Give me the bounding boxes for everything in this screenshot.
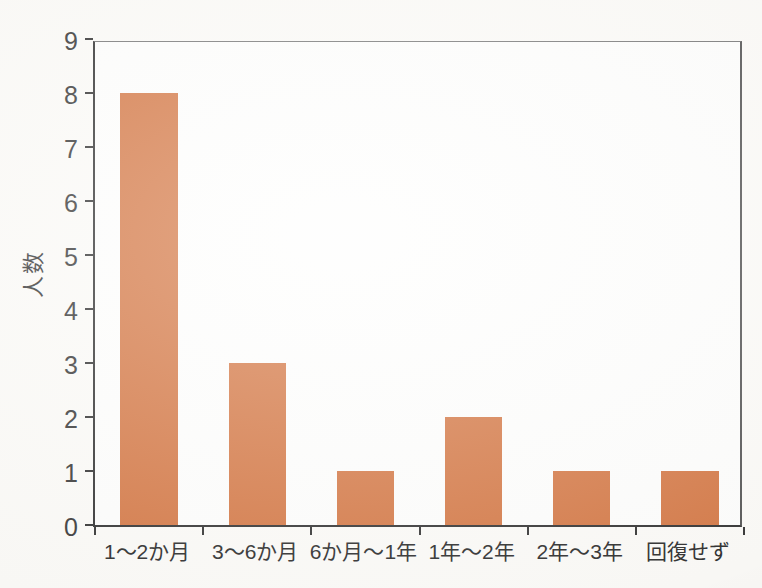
x-tick-label: 6か月〜1年 [309,540,417,564]
x-axis-tick [527,527,529,535]
y-tick-label: 4 [38,298,78,324]
x-axis-tick [202,527,204,535]
y-axis-tick [85,146,93,148]
x-axis-tick [635,527,637,535]
x-tick-label: 2年〜3年 [526,540,634,564]
y-axis-tick [85,254,93,256]
x-axis-tick [310,527,312,535]
y-tick-label: 6 [38,190,78,216]
y-axis-tick [85,92,93,94]
y-tick-label: 3 [38,352,78,378]
plot-area [93,41,742,527]
y-tick-label: 8 [38,82,78,108]
x-tick-label: 1年〜2年 [418,540,526,564]
y-tick-label: 9 [38,28,78,54]
y-tick-label: 0 [38,514,78,540]
y-axis-tick [85,524,93,526]
x-axis-tick [743,527,745,535]
x-tick-label: 回復せず [634,540,742,564]
y-axis-tick [85,308,93,310]
y-axis-tick [85,38,93,40]
y-axis-tick [85,470,93,472]
y-axis-tick [85,200,93,202]
x-axis-tick [419,527,421,535]
y-tick-label: 5 [38,244,78,270]
ticks-layer [95,42,740,525]
x-axis-tick [94,527,96,535]
y-tick-label: 2 [38,406,78,432]
y-axis-tick [85,416,93,418]
y-tick-label: 1 [38,460,78,486]
chart-figure: 人数 0123456789 1〜2か月3〜6か月6か月〜1年1年〜2年2年〜3年… [0,0,762,588]
y-axis-tick [85,362,93,364]
x-tick-label: 3〜6か月 [201,540,309,564]
x-tick-label: 1〜2か月 [93,540,201,564]
y-tick-label: 7 [38,136,78,162]
